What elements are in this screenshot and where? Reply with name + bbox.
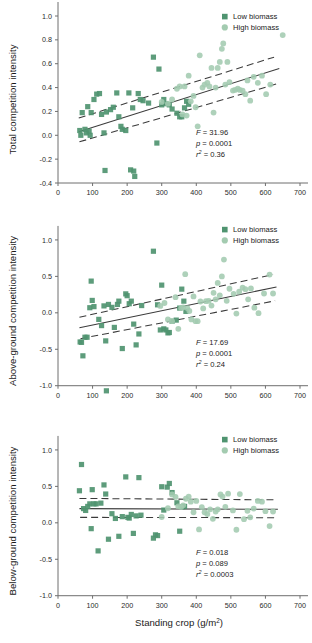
legend-swatch-low-biomass [222,14,228,20]
data-point-high-biomass [196,526,202,532]
data-point-low-biomass [131,322,136,327]
y-tick-label: 0.0 [42,131,52,140]
data-point-low-biomass [116,299,121,304]
data-point-high-biomass [184,113,190,119]
x-tick-label: 700 [294,391,306,400]
y-tick-label: -0.4 [40,179,52,188]
data-point-high-biomass [251,74,257,80]
data-point-low-biomass [96,317,101,322]
data-point-low-biomass [85,104,90,109]
x-tick-label: 100 [87,391,99,400]
data-point-low-biomass [109,511,114,516]
data-point-high-biomass [199,504,205,510]
x-tick-label: 500 [225,188,237,197]
data-point-low-biomass [88,133,93,138]
data-point-high-biomass [165,101,171,107]
y-tick-label: -1.0 [40,381,52,390]
data-point-low-biomass [80,353,85,358]
data-point-high-biomass [198,299,204,305]
data-point-high-biomass [220,41,226,47]
data-point-low-biomass [179,287,184,292]
data-point-high-biomass [217,292,223,298]
data-point-low-biomass [155,533,160,538]
x-tick-label: 200 [121,391,133,400]
x-tick-label: 600 [259,601,271,610]
data-point-low-biomass [120,514,125,519]
x-axis-title: Standing crop (g/m2) [135,616,223,628]
data-point-high-biomass [222,504,228,510]
data-point-low-biomass [123,474,128,479]
data-point-high-biomass [159,99,165,105]
y-tick-label: -0.5 [40,345,52,354]
x-tick-label: 100 [87,188,99,197]
x-tick-label: 0 [56,391,60,400]
data-point-low-biomass [140,98,145,103]
data-point-low-biomass [89,279,94,284]
chart-panel-a: -0.4-0.20.00.20.40.60.81.001002003004005… [0,0,312,213]
data-point-low-biomass [134,513,139,518]
y-tick-label: -0.2 [40,155,52,164]
data-point-high-biomass [215,506,221,512]
data-point-high-biomass [197,52,203,58]
data-point-high-biomass [221,257,227,263]
chart-panel-b: -1.0-0.50.00.51.00100200300400500600700A… [0,213,312,423]
data-point-high-biomass [245,296,251,302]
data-point-high-biomass [211,110,217,116]
data-point-low-biomass [120,346,125,351]
stat-r-squared: r2 = 0.36 [196,149,225,159]
data-point-low-biomass [78,133,83,138]
data-point-low-biomass [90,487,95,492]
data-point-low-biomass [109,305,114,310]
legend-label-high-biomass: High biomass [233,23,279,32]
data-point-low-biomass [99,112,104,117]
data-point-high-biomass [242,286,248,292]
data-point-high-biomass [263,91,269,97]
x-tick-label: 400 [190,391,202,400]
data-point-low-biomass [103,338,108,343]
stats-annotation: F = 31.96p = 0.0001r2 = 0.36 [195,128,232,159]
data-point-high-biomass [230,508,236,514]
data-point-low-biomass [136,475,141,480]
data-point-high-biomass [233,527,239,533]
data-point-high-biomass [165,505,171,511]
legend-swatch-high-biomass [222,447,228,453]
data-point-low-biomass [159,484,164,489]
stats-annotation: F = 17.69p = 0.0001r2 = 0.24 [195,338,232,369]
y-tick-label: 0.0 [42,518,52,527]
data-point-high-biomass [267,523,273,529]
data-point-high-biomass [173,294,179,300]
data-point-high-biomass [242,91,248,97]
data-point-low-biomass [132,174,137,179]
data-point-low-biomass [90,298,95,303]
x-tick-label: 100 [87,601,99,610]
data-point-low-biomass [123,128,128,133]
data-point-low-biomass [79,462,84,467]
data-point-high-biomass [225,59,231,65]
data-point-high-biomass [186,308,192,314]
data-point-high-biomass [255,80,261,86]
data-point-low-biomass [77,488,82,493]
data-point-low-biomass [103,491,108,496]
legend: Low biomassHigh biomass [222,225,280,245]
stat-p-value: p = 0.089 [195,559,228,568]
data-point-low-biomass [134,342,139,347]
data-point-high-biomass [195,318,201,324]
data-point-high-biomass [247,514,253,520]
y-tick-label: 0.6 [42,59,52,68]
data-point-low-biomass [79,340,84,345]
stat-r-squared: r2 = 0.0003 [196,569,233,579]
data-point-low-biomass [111,105,116,110]
x-tick-label: 700 [294,188,306,197]
data-point-high-biomass [207,83,213,89]
figure-container: -0.4-0.20.00.20.40.60.81.001002003004005… [0,0,312,643]
data-point-low-biomass [138,513,143,518]
x-tick-label: 400 [190,601,202,610]
data-point-high-biomass [245,78,251,84]
legend-swatch-high-biomass [222,237,228,243]
data-point-high-biomass [227,286,233,292]
legend: Low biomassHigh biomass [222,435,280,455]
data-point-high-biomass [188,499,194,505]
data-point-high-biomass [173,494,179,500]
data-point-high-biomass [259,499,265,505]
data-point-high-biomass [233,311,239,317]
